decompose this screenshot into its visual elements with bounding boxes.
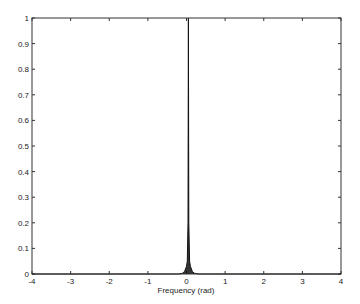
y-tick-label: 0.8 (18, 65, 30, 74)
x-tick-label: 1 (223, 277, 228, 286)
y-tick-label: 0.9 (18, 40, 30, 49)
x-tick-label: -4 (28, 277, 36, 286)
x-tick-label: -1 (144, 277, 152, 286)
y-tick-label: 0.3 (18, 193, 30, 202)
y-tick-label: 0.5 (18, 142, 30, 151)
axis-ticks: -4-3-2-10123400.10.20.30.40.50.60.70.80.… (18, 14, 344, 286)
x-axis-label: Frequency (rad) (158, 286, 215, 295)
spectrum-chart: -4-3-2-10123400.10.20.30.40.50.60.70.80.… (0, 0, 360, 304)
y-tick-label: 0 (25, 270, 30, 279)
x-tick-label: 4 (339, 277, 344, 286)
x-tick-label: 3 (300, 277, 305, 286)
series-line (32, 18, 341, 274)
x-tick-label: -2 (106, 277, 114, 286)
y-tick-label: 0.2 (18, 219, 30, 228)
x-tick-label: -3 (67, 277, 75, 286)
y-tick-label: 0.4 (18, 168, 30, 177)
data-series (32, 18, 341, 274)
x-tick-label: 2 (262, 277, 267, 286)
spike-fill (32, 18, 341, 274)
axes-box (32, 18, 341, 274)
y-tick-label: 1 (25, 14, 30, 23)
y-tick-label: 0.6 (18, 116, 30, 125)
y-tick-label: 0.1 (18, 244, 30, 253)
y-tick-label: 0.7 (18, 91, 30, 100)
x-tick-label: 0 (184, 277, 189, 286)
